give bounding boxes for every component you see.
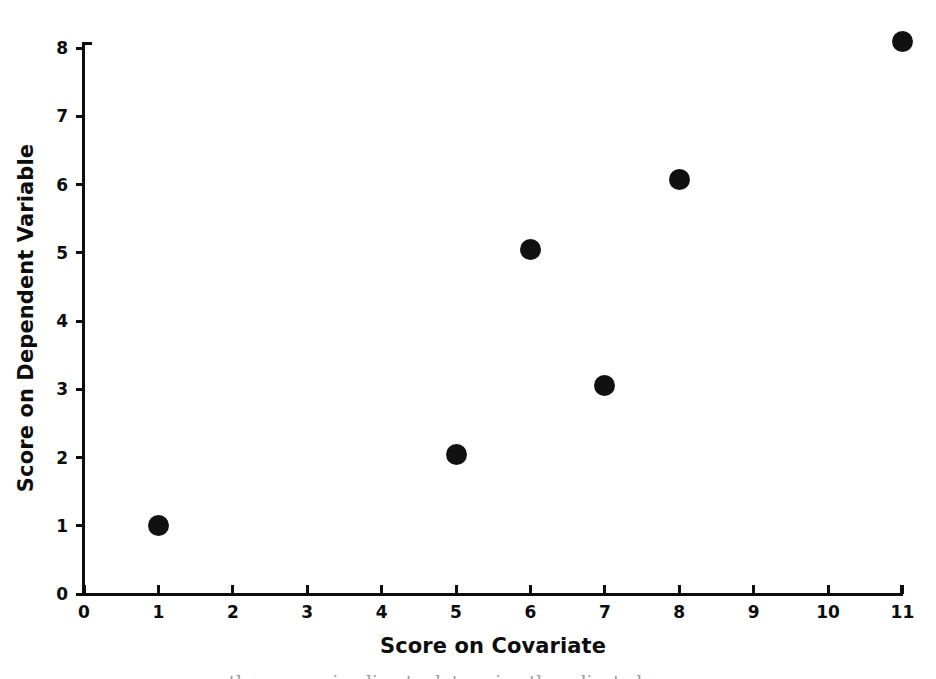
x-axis-tick-label: 9 (748, 604, 760, 621)
x-axis-title: Score on Covariate (0, 634, 936, 658)
x-axis-tick-label: 5 (450, 604, 462, 621)
x-axis-tick-label: 3 (301, 604, 313, 621)
y-axis-tick (76, 183, 85, 186)
x-axis-tick (678, 585, 681, 594)
y-axis-tick-label: 5 (56, 244, 68, 261)
y-axis-tick (76, 251, 85, 254)
x-axis-tick (901, 585, 904, 594)
x-axis-tick-label: 7 (599, 604, 611, 621)
y-axis-tick (76, 115, 85, 118)
y-axis-tick-label: 1 (56, 517, 68, 534)
data-point-marker (669, 169, 690, 190)
x-axis-tick (380, 585, 383, 594)
x-axis-tick (157, 585, 160, 594)
x-axis-tick (455, 585, 458, 594)
x-axis-tick-label: 6 (524, 604, 536, 621)
x-axis-tick-label: 2 (227, 604, 239, 621)
y-axis-tick-label: 2 (56, 449, 68, 466)
data-point-marker (446, 444, 467, 465)
x-axis-line (84, 593, 903, 596)
x-axis-tick-label: 8 (673, 604, 685, 621)
x-axis-tick (529, 585, 532, 594)
x-axis-tick (306, 585, 309, 594)
x-axis-tick (603, 585, 606, 594)
x-axis-tick (231, 585, 234, 594)
x-axis-tick-label: 10 (816, 604, 840, 621)
data-point-marker (892, 31, 913, 52)
y-axis-tick-label: 7 (56, 108, 68, 125)
y-axis-tick (76, 388, 85, 391)
y-axis-tick (76, 593, 85, 596)
y-axis-tick-label: 4 (56, 313, 68, 330)
y-axis-tick-label: 0 (56, 586, 68, 603)
x-axis-tick (752, 585, 755, 594)
data-point-marker (594, 375, 615, 396)
x-axis-tick-label: 4 (376, 604, 388, 621)
y-axis-tick (76, 524, 85, 527)
scatter-plot-figure: 01234567891011012345678 Score on Covaria… (0, 0, 936, 679)
x-axis-tick (827, 585, 830, 594)
data-point-marker (148, 515, 169, 536)
data-point-marker (520, 239, 541, 260)
y-axis-tick-label: 3 (56, 381, 68, 398)
x-axis-tick-label: 1 (152, 604, 164, 621)
y-axis-tick (76, 47, 85, 50)
x-axis-tick-label: 0 (78, 604, 90, 621)
y-axis-end-cap (82, 42, 92, 45)
plot-area: 01234567891011012345678 (0, 0, 936, 679)
caption-bleed-text: the regression line to determine the adj… (0, 672, 936, 679)
y-axis-tick-label: 6 (56, 176, 68, 193)
y-axis-tick (76, 456, 85, 459)
x-axis-tick-label: 11 (891, 604, 915, 621)
y-axis-tick-label: 8 (56, 40, 68, 57)
y-axis-tick (76, 320, 85, 323)
y-axis-title: Score on Dependent Variable (14, 144, 38, 492)
x-axis-title-text: Score on Covariate (380, 634, 606, 658)
